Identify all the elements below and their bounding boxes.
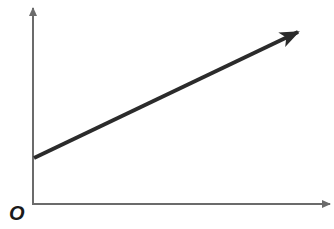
origin-label: O — [9, 202, 25, 225]
chart-canvas — [0, 0, 334, 229]
data-line — [34, 32, 298, 158]
